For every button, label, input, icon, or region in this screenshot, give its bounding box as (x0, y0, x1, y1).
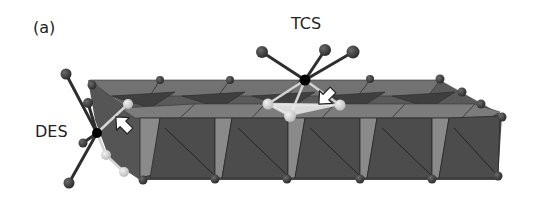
des-site-label: DES (35, 124, 68, 140)
octahedra-slab (88, 75, 507, 185)
crystal-structure-figure: (a) DES TCS (0, 0, 546, 216)
tcs-site-label: TCS (291, 16, 321, 32)
octahedral-slab-diagram (0, 0, 546, 216)
panel-label: (a) (33, 20, 55, 36)
